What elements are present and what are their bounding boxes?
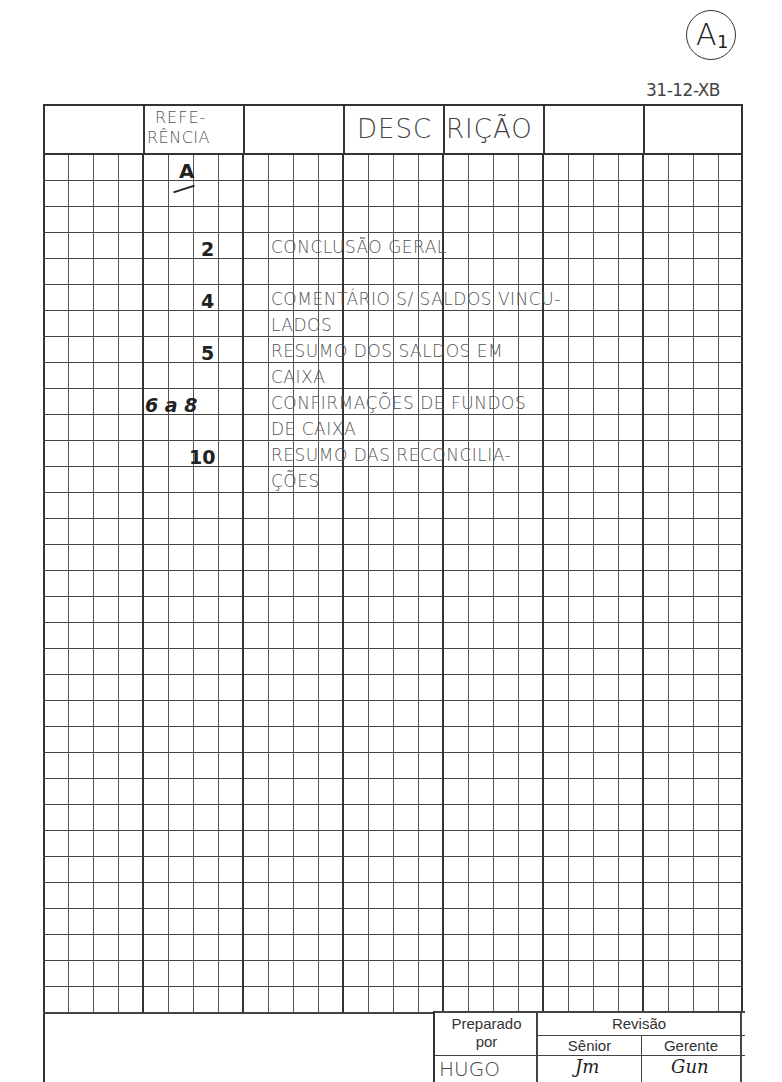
grid-column-line: [442, 155, 444, 1013]
header-row: REFE- RÊNCIA DESC RIÇÃO: [43, 104, 743, 155]
grid-column-line: [468, 155, 469, 1013]
badge-subscript: 1: [717, 31, 728, 52]
grid-column-line: [618, 155, 619, 1013]
grid-column-line: [668, 155, 669, 1013]
header-cell-blank-3: [545, 106, 645, 155]
grid-column-line: [593, 155, 594, 1013]
grid-column-line: [642, 155, 644, 1013]
entry-desc-2-line2: LADOS: [271, 315, 332, 335]
grid-column-line: [68, 155, 69, 1013]
senior-label: Sênior: [538, 1037, 641, 1054]
header-cell-blank-1: [45, 106, 145, 155]
header-cell-description-a: DESC: [345, 106, 445, 155]
prepared-by-label-line2: por: [437, 1033, 536, 1050]
grid-column-line: [568, 155, 569, 1013]
entry-ref-4: 6 a 8: [145, 394, 198, 416]
review-label: Revisão: [538, 1015, 740, 1032]
description-header-part2: RIÇÃO: [446, 114, 533, 144]
grid-column-line: [418, 155, 419, 1013]
entry-desc-3-line1: RESUMO DOS SALDOS EM: [271, 341, 503, 361]
prepared-by-name: HUGO: [439, 1057, 529, 1081]
header-cell-description-b: RIÇÃO: [445, 106, 545, 155]
grid-column-line: [518, 155, 519, 1013]
description-header-part1: DESC: [357, 114, 432, 144]
header-cell-blank-4: [645, 106, 743, 155]
entry-desc-5-line2: ÇÕES: [271, 471, 320, 491]
entry-desc-4-line1: CONFIRMAÇÕES DE FUNDOS: [271, 393, 526, 413]
prepared-by-label-line1: Preparado: [437, 1015, 536, 1032]
grid-column-line: [93, 155, 94, 1013]
index-badge: A 1: [686, 10, 736, 60]
entry-desc-5-line1: RESUMO DAS RECONCILIA-: [271, 445, 511, 465]
grid-column-line: [193, 155, 194, 1013]
badge-letter: A: [696, 17, 717, 52]
signoff-box: Preparado por Revisão Sênior Gerente HUG…: [433, 1011, 743, 1082]
document-code: 31-12-XB: [646, 80, 720, 100]
grid-column-line: [368, 155, 369, 1013]
entry-desc-3-line2: CAIXA: [271, 367, 325, 387]
grid-column-line: [318, 155, 319, 1013]
grid-column-line: [393, 155, 394, 1013]
senior-signature: Jm: [575, 1056, 599, 1077]
grid-column-line: [293, 155, 294, 1013]
grid-area: [43, 155, 743, 1013]
footer-right-line: [740, 1011, 742, 1082]
grid-column-line: [268, 155, 269, 1013]
header-cell-blank-2: [245, 106, 345, 155]
grid-column-line: [542, 155, 544, 1013]
grid-column-line: [218, 155, 219, 1013]
footer-top-line: [435, 1011, 745, 1013]
grid-column-line: [718, 155, 719, 1013]
grid-column-line: [242, 155, 244, 1013]
reference-header-line1: REFE-: [155, 108, 206, 127]
entry-desc-4-line2: DE CAIXA: [271, 419, 356, 439]
grid-column-line: [342, 155, 344, 1013]
grid-column-line: [693, 155, 694, 1013]
reference-header-line2: RÊNCIA: [147, 128, 210, 147]
manager-label: Gerente: [642, 1037, 740, 1054]
entry-ref-3: 5: [201, 342, 214, 364]
entry-desc-2-line1: COMENTÁRIO S/ SALDOS VINCU-: [271, 289, 561, 309]
grid-column-line: [168, 155, 169, 1013]
entry-ref-5: 10: [189, 446, 215, 468]
reference-section-letter: A: [179, 159, 194, 183]
manager-signature: Gun: [671, 1056, 709, 1077]
worksheet: REFE- RÊNCIA DESC RIÇÃO A 2 CONCLUSÃO GE…: [43, 104, 743, 1082]
grid-column-line: [493, 155, 494, 1013]
grid-column-line: [142, 155, 144, 1013]
header-cell-reference: REFE- RÊNCIA: [145, 106, 245, 155]
entry-ref-1: 2: [201, 238, 214, 260]
entry-desc-1-line1: CONCLUSÃO GERAL: [271, 237, 447, 257]
entry-ref-2: 4: [201, 290, 214, 312]
grid-column-line: [118, 155, 119, 1013]
